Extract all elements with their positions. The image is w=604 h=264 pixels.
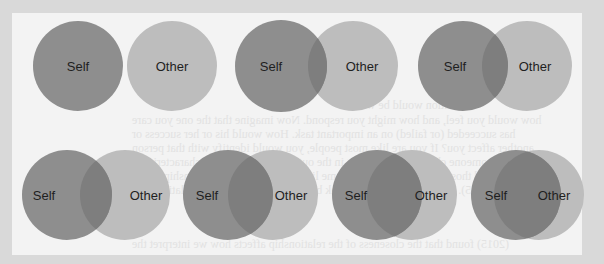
- other-label: Other: [519, 59, 552, 74]
- other-label: Other: [346, 59, 379, 74]
- self-label: Self: [67, 59, 90, 74]
- self-label: Self: [260, 59, 283, 74]
- circle-pair-3: SelfOther: [418, 21, 572, 111]
- venn-diagram-set: SelfOtherSelfOtherSelfOtherSelfOtherSelf…: [0, 0, 604, 264]
- other-label: Other: [538, 188, 571, 203]
- self-label: Self: [33, 188, 56, 203]
- circle-pair-2: SelfOther: [235, 20, 398, 112]
- other-label: Other: [275, 188, 308, 203]
- circle-pairs: SelfOtherSelfOtherSelfOtherSelfOtherSelf…: [22, 20, 584, 240]
- self-label: Self: [345, 188, 368, 203]
- circle-pair-6: SelfOther: [332, 150, 457, 240]
- scanned-page: W cation would be what how would you fee…: [0, 0, 604, 264]
- circle-pair-5: SelfOther: [183, 150, 318, 240]
- other-label: Other: [156, 59, 189, 74]
- self-label: Self: [444, 59, 467, 74]
- circle-pair-7: SelfOther: [471, 150, 584, 240]
- circle-pair-1: SelfOther: [33, 21, 217, 111]
- other-label: Other: [415, 188, 448, 203]
- other-label: Other: [130, 188, 163, 203]
- circle-pair-4: SelfOther: [22, 150, 170, 240]
- self-label: Self: [485, 188, 508, 203]
- self-label: Self: [196, 188, 219, 203]
